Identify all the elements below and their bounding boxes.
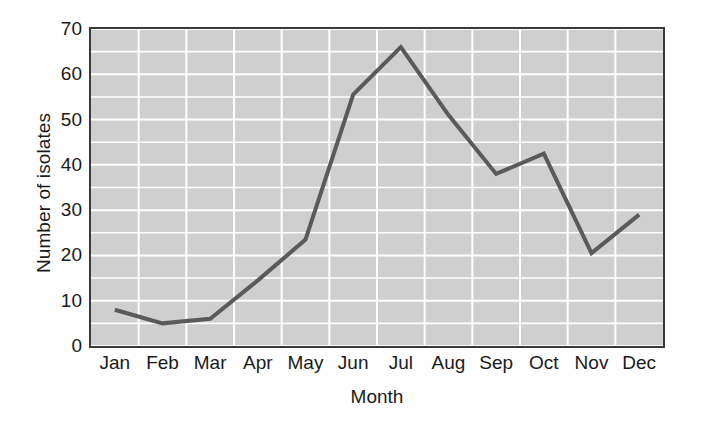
y-tick-label: 30 bbox=[48, 200, 82, 219]
x-axis-label: Month bbox=[89, 386, 665, 408]
y-tick-label: 10 bbox=[48, 291, 82, 310]
y-tick-label: 40 bbox=[48, 155, 82, 174]
chart-figure: Number of isolates 010203040506070 JanFe… bbox=[0, 0, 704, 421]
x-tick-label: Dec bbox=[609, 352, 669, 375]
y-tick-label: 0 bbox=[48, 336, 82, 355]
y-axis-tick-labels: 010203040506070 bbox=[38, 0, 82, 421]
y-tick-label: 20 bbox=[48, 245, 82, 264]
y-tick-label: 70 bbox=[48, 19, 82, 38]
x-axis-tick-labels: JanFebMarAprMayJunJulAugSepOctNovDec bbox=[89, 352, 665, 378]
y-tick-label: 60 bbox=[48, 64, 82, 83]
y-tick-label: 50 bbox=[48, 110, 82, 129]
plot-area bbox=[89, 27, 665, 348]
line-chart-svg bbox=[91, 29, 663, 346]
